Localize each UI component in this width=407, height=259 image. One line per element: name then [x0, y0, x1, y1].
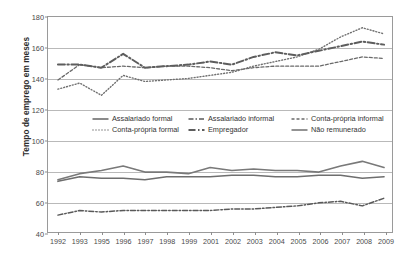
x-tick-mark — [277, 232, 278, 235]
series-line-conta-pr-pria-formal — [58, 28, 384, 96]
y-tick-label: 120 — [32, 106, 44, 115]
x-tick-label: 1992 — [50, 237, 66, 246]
series-line-empregador — [58, 42, 384, 68]
legend-swatch-dotted-icon — [92, 126, 109, 134]
x-tick-mark — [102, 232, 103, 235]
x-tick-label: 2006 — [312, 237, 328, 246]
x-tick-mark — [320, 232, 321, 235]
x-tick-label: 1996 — [116, 237, 132, 246]
series-line-conta-pr-pria-informal — [58, 57, 384, 80]
x-tick-mark — [386, 232, 387, 235]
x-tick-label: 2003 — [247, 237, 263, 246]
y-tick-label: 180 — [32, 13, 44, 22]
y-tick-label: 100 — [32, 137, 44, 146]
legend-label: Não remunerado — [311, 125, 366, 134]
x-tick-mark — [233, 232, 234, 235]
series-line-assalariado-formal — [58, 175, 384, 181]
x-tick-label: 1997 — [137, 237, 153, 246]
x-tick-label: 2004 — [269, 237, 285, 246]
x-tick-mark — [124, 232, 125, 235]
legend-item-conta-pr-pria-formal[interactable]: Conta-própria formal — [92, 125, 188, 134]
legend-item-empregador[interactable]: Empregador — [188, 125, 291, 134]
legend-swatch-solid-icon — [92, 115, 109, 123]
x-tick-mark — [211, 232, 212, 235]
legend-label: Conta-própria formal — [112, 125, 179, 134]
series-line-n-o-remunerado — [58, 161, 384, 179]
x-tick-mark — [189, 232, 190, 235]
legend-swatch-long-dash-dot-icon — [188, 126, 205, 134]
x-tick-mark — [299, 232, 300, 235]
x-tick-mark — [342, 232, 343, 235]
x-tick-label: 2005 — [291, 237, 307, 246]
y-tick-label: 140 — [32, 75, 44, 84]
employment-duration-line-chart: Tempo de emprego em meses 40608010012014… — [0, 0, 407, 259]
series-line-assalariado-informal — [58, 198, 384, 215]
legend-label: Conta-própria informal — [311, 114, 384, 123]
legend-swatch-dashed-icon — [291, 115, 308, 123]
legend-label: Assalariado informal — [208, 114, 274, 123]
y-tick-label: 80 — [36, 168, 44, 177]
x-tick-mark — [58, 232, 59, 235]
legend-label: Assalariado formal — [112, 114, 172, 123]
x-tick-mark — [167, 232, 168, 235]
x-tick-label: 2008 — [356, 237, 372, 246]
x-tick-label: 1993 — [72, 237, 88, 246]
x-tick-label: 1995 — [94, 237, 110, 246]
legend-label: Empregador — [208, 125, 248, 134]
x-tick-label: 2007 — [334, 237, 350, 246]
y-tick-label: 60 — [36, 199, 44, 208]
x-tick-label: 2001 — [203, 237, 219, 246]
x-tick-label: 2002 — [225, 237, 241, 246]
x-tick-label: 1998 — [159, 237, 175, 246]
x-tick-label: 1999 — [181, 237, 197, 246]
y-tick-mark — [45, 234, 48, 235]
legend-swatch-dash-dot-icon — [188, 115, 205, 123]
legend-item-assalariado-formal[interactable]: Assalariado formal — [92, 114, 188, 123]
y-tick-label: 160 — [32, 44, 44, 53]
legend-item-n-o-remunerado[interactable]: Não remunerado — [291, 125, 398, 134]
legend-item-conta-pr-pria-informal[interactable]: Conta-própria informal — [291, 114, 398, 123]
legend-swatch-solid-icon — [291, 126, 308, 134]
chart-legend: Assalariado formalAssalariado informalCo… — [92, 113, 398, 135]
y-tick-label: 40 — [36, 230, 44, 239]
x-tick-mark — [364, 232, 365, 235]
y-axis-title: Tempo de emprego em meses — [22, 27, 31, 167]
x-tick-label: 2009 — [378, 237, 394, 246]
x-tick-mark — [80, 232, 81, 235]
legend-item-assalariado-informal[interactable]: Assalariado informal — [188, 114, 291, 123]
x-tick-mark — [255, 232, 256, 235]
x-tick-mark — [145, 232, 146, 235]
